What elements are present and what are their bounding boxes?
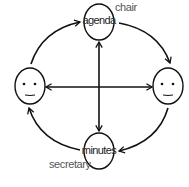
agenda-label: agenda	[82, 14, 115, 26]
right-person-smiley-icon	[153, 68, 183, 104]
chair-role-label: chair	[115, 1, 137, 13]
secretary-role-label: secretary	[49, 158, 91, 170]
meeting-diagram	[0, 0, 189, 187]
arrow-minutes-to-left	[29, 108, 80, 150]
arrow-left-to-agenda	[31, 22, 80, 64]
arrow-agenda-to-right	[119, 23, 170, 63]
minutes-label: minutes	[82, 144, 116, 156]
left-person-smiley-icon	[15, 68, 45, 104]
arrow-right-to-minutes	[119, 108, 168, 151]
